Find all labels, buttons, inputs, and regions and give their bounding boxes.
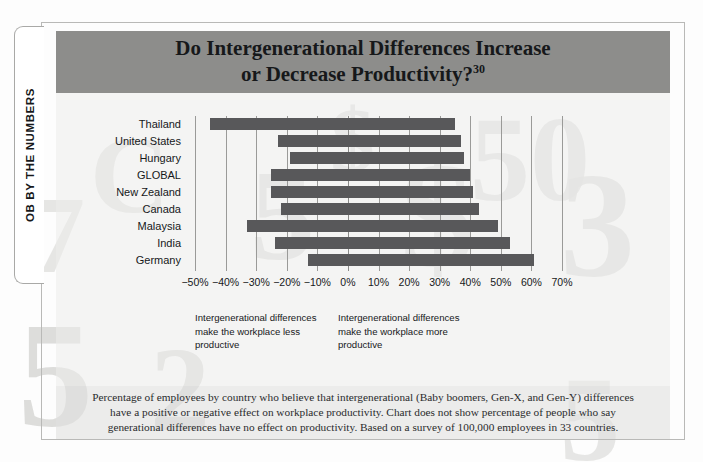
annotation-right: Intergenerational differences make the w… — [338, 311, 470, 352]
annotation-left: Intergenerational differences make the w… — [195, 311, 327, 352]
section-tab: OB BY THE NUMBERS — [14, 26, 44, 284]
axis-tick-label: 60% — [521, 276, 542, 288]
bar-row — [195, 201, 562, 218]
section-tab-label: OB BY THE NUMBERS — [24, 88, 36, 222]
bar — [271, 169, 470, 181]
footnote-reference: 30 — [473, 62, 485, 76]
axis-tick-label: 30% — [429, 276, 450, 288]
bar — [275, 237, 510, 249]
category-label: GLOBAL — [56, 167, 188, 184]
axis-tick-label: 20% — [399, 276, 420, 288]
bar — [278, 135, 462, 147]
axis-tick-label: 40% — [460, 276, 481, 288]
chart-area: Thailand United States Hungary GLOBAL Ne… — [56, 93, 670, 386]
axis-tick-label: 70% — [551, 276, 572, 288]
category-label: Thailand — [56, 116, 188, 133]
gridline — [562, 116, 563, 271]
bar — [271, 186, 473, 198]
axis-tick-label: 0% — [340, 276, 355, 288]
bar — [308, 254, 534, 266]
category-label: Canada — [56, 201, 188, 218]
value-axis: −50%−40%−30%−20%−10%0%10%20%30%40%50%60%… — [168, 276, 668, 292]
figure-root: 5 2 5 $ $ 50 3 5 C 7 OB BY THE NUMBERS D… — [0, 0, 703, 462]
category-axis-labels: Thailand United States Hungary GLOBAL Ne… — [56, 116, 188, 269]
axis-tick-label: −20% — [273, 276, 300, 288]
bar-row — [195, 184, 562, 201]
bar-row — [195, 116, 562, 133]
bar-row — [195, 150, 562, 167]
category-label: Germany — [56, 252, 188, 269]
chart-title: Do Intergenerational Differences Increas… — [175, 36, 550, 87]
bar — [290, 152, 464, 164]
axis-tick-label: −30% — [243, 276, 270, 288]
category-label: Malaysia — [56, 218, 188, 235]
axis-tick-label: −40% — [212, 276, 239, 288]
category-label: Hungary — [56, 150, 188, 167]
chart-title-band: Do Intergenerational Differences Increas… — [56, 31, 670, 93]
bar — [210, 118, 455, 130]
category-label: New Zealand — [56, 184, 188, 201]
bar-row — [195, 252, 562, 269]
caption-text: Percentage of employees by country who b… — [56, 390, 670, 435]
plot-region — [195, 116, 562, 271]
bar-row — [195, 167, 562, 184]
axis-tick-label: −50% — [181, 276, 208, 288]
chart-title-line2: or Decrease Productivity? — [241, 62, 473, 86]
category-label: India — [56, 235, 188, 252]
chart-title-line1: Do Intergenerational Differences Increas… — [175, 36, 550, 60]
bar-row — [195, 133, 562, 150]
bar — [247, 220, 498, 232]
axis-tick-label: −10% — [304, 276, 331, 288]
bar-row — [195, 235, 562, 252]
category-label: United States — [56, 133, 188, 150]
bar-row — [195, 218, 562, 235]
bar — [281, 203, 480, 215]
axis-tick-label: 10% — [368, 276, 389, 288]
axis-tick-label: 50% — [490, 276, 511, 288]
caption-block: Percentage of employees by country who b… — [56, 386, 670, 439]
